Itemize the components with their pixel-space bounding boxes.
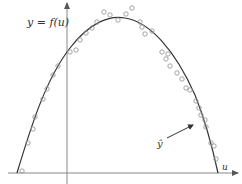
- data-point: [188, 88, 192, 92]
- data-point: [108, 13, 112, 17]
- data-point: [168, 64, 172, 68]
- data-point: [166, 52, 170, 56]
- data-point: [68, 50, 72, 54]
- data-point: [140, 25, 144, 29]
- data-point: [164, 57, 168, 61]
- data-point: [116, 18, 120, 22]
- x-axis-label: u: [222, 162, 228, 172]
- data-point: [74, 48, 78, 52]
- data-point: [175, 71, 179, 75]
- fitted-curve: [17, 17, 218, 173]
- data-point: [212, 144, 216, 148]
- data-point: [160, 50, 164, 54]
- y-hat-label: ŷ: [156, 138, 163, 149]
- y-hat-pointer-arrow: [167, 125, 193, 138]
- data-point: [78, 38, 82, 42]
- y-axis-label: y = f(u): [26, 16, 69, 29]
- data-point: [102, 10, 106, 14]
- data-point: [180, 77, 184, 81]
- regression-diagram: y = f(u) u ŷ: [0, 0, 242, 184]
- data-point: [143, 32, 147, 36]
- data-points: [20, 6, 218, 173]
- data-point: [124, 12, 128, 16]
- diagram-canvas: y = f(u) u ŷ: [0, 0, 242, 184]
- data-point: [130, 6, 134, 10]
